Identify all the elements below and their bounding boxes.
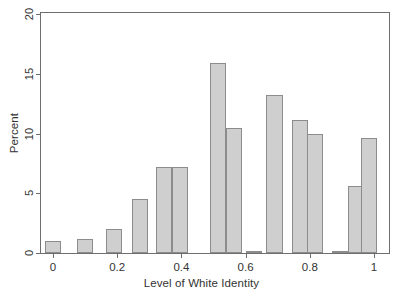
histogram-bar	[332, 251, 348, 253]
y-tick-label: 5	[22, 184, 36, 202]
histogram-bar	[226, 128, 242, 253]
histogram-bar	[210, 63, 226, 253]
histogram-bar	[361, 138, 377, 253]
histogram-bar	[307, 134, 323, 254]
histogram-bar	[45, 241, 61, 253]
y-tick-label: 15	[22, 65, 36, 83]
histogram-bar	[132, 199, 148, 253]
plot-frame-top	[40, 12, 389, 13]
x-tick-label: 0	[50, 261, 56, 273]
x-tick-mark	[246, 254, 247, 258]
histogram-bar	[106, 229, 122, 253]
x-tick-mark	[310, 254, 311, 258]
x-tick-mark	[374, 254, 375, 258]
x-tick-mark	[117, 254, 118, 258]
histogram-figure: Percent Level of White Identity 05101520…	[0, 0, 403, 299]
plot-frame-left	[40, 12, 41, 254]
x-axis-label: Level of White Identity	[0, 277, 403, 289]
x-tick-mark	[53, 254, 54, 258]
y-tick-label: 10	[22, 125, 36, 143]
histogram-bar	[172, 167, 188, 253]
x-tick-label: 0.8	[302, 261, 318, 273]
y-tick-label: 0	[22, 244, 36, 262]
histogram-bar	[77, 239, 93, 253]
x-tick-mark	[181, 254, 182, 258]
y-axis-label: Percent	[8, 113, 20, 153]
x-tick-label: 0.2	[109, 261, 125, 273]
y-tick-label: 20	[22, 5, 36, 23]
histogram-bar	[156, 167, 172, 253]
x-tick-label: 1	[371, 261, 377, 273]
x-tick-label: 0.6	[238, 261, 254, 273]
plot-frame-right	[389, 12, 390, 254]
x-tick-label: 0.4	[173, 261, 189, 273]
histogram-bar	[246, 251, 262, 253]
histogram-bar	[266, 95, 282, 253]
